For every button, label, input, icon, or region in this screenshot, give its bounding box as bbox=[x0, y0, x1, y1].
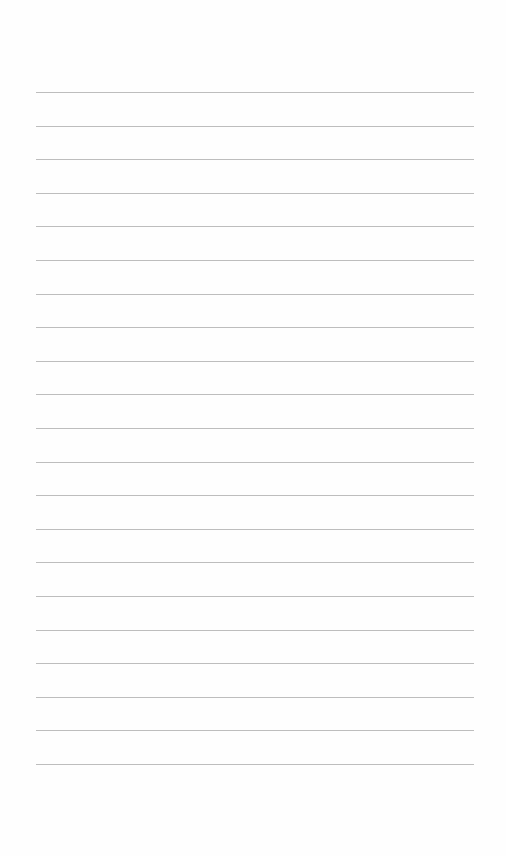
ruled-line bbox=[36, 697, 474, 698]
ruled-line bbox=[36, 361, 474, 362]
ruled-line bbox=[36, 126, 474, 127]
ruled-line bbox=[36, 294, 474, 295]
ruled-line bbox=[36, 764, 474, 765]
ruled-line bbox=[36, 462, 474, 463]
ruled-line bbox=[36, 529, 474, 530]
ruled-line bbox=[36, 193, 474, 194]
ruled-line bbox=[36, 730, 474, 731]
ruled-line bbox=[36, 327, 474, 328]
ruled-line bbox=[36, 428, 474, 429]
ruled-line bbox=[36, 495, 474, 496]
ruled-line bbox=[36, 663, 474, 664]
ruled-line bbox=[36, 226, 474, 227]
ruled-line bbox=[36, 630, 474, 631]
lined-paper-page bbox=[0, 0, 506, 856]
ruled-line bbox=[36, 92, 474, 93]
ruled-line bbox=[36, 562, 474, 563]
ruled-line bbox=[36, 394, 474, 395]
ruled-line bbox=[36, 596, 474, 597]
ruled-line bbox=[36, 159, 474, 160]
ruled-line bbox=[36, 260, 474, 261]
